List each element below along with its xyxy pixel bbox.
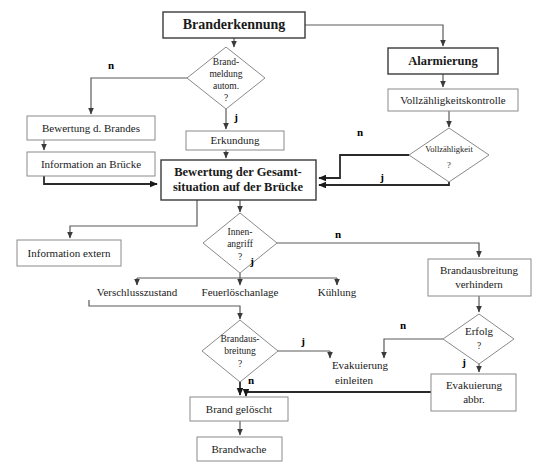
node-layer: Branderkennung Alarmierung Vollzähligkei… <box>17 12 531 461</box>
node-brandausbreitung-q-line2: breitung <box>224 346 256 356</box>
node-evakuierung-abbr[interactable]: Evakuierung abbr. <box>431 374 516 411</box>
node-kuehlung[interactable]: Kühlung <box>318 286 357 298</box>
node-branderkennung-label: Branderkennung <box>183 17 286 32</box>
node-information-extern[interactable]: Information extern <box>17 240 121 266</box>
node-brand-geloescht[interactable]: Brand gelöscht <box>190 397 288 421</box>
node-evakuierung-abbr-line1: Evakuierung <box>446 379 503 391</box>
edge-vollzaehligkeit-j <box>319 182 449 185</box>
node-verschlusszustand-label: Verschlusszustand <box>97 286 178 298</box>
branch-label-n-innenangriff: n <box>335 228 341 240</box>
edge-gesamtsituation-to-information-extern <box>70 200 197 238</box>
node-innenangriff[interactable]: Innen- angriff ? <box>203 213 277 273</box>
node-kuehlung-label: Kühlung <box>318 286 357 298</box>
flowchart-canvas: Branderkennung Alarmierung Vollzähligkei… <box>0 0 540 475</box>
branch-label-n-brandmeldung: n <box>108 59 114 71</box>
node-erfolg[interactable]: Erfolg ? <box>443 314 514 364</box>
node-feuerloeschanlage[interactable]: Feuerlöschanlage <box>202 286 279 298</box>
node-vollzaehligkeit[interactable]: Vollzähligkeit ? <box>409 128 489 182</box>
edge-vollzaehligkeit-n <box>319 155 409 178</box>
node-information-extern-label: Information extern <box>28 247 111 259</box>
edge-information-bruecke-to-gesamtsituation <box>44 176 157 184</box>
node-brandausbreitung-q-line3: ? <box>238 359 242 369</box>
node-vollzaehligkeit-line2: ? <box>447 160 451 170</box>
node-erfolg-line2: ? <box>477 341 481 351</box>
node-brandwache[interactable]: Brandwache <box>197 437 282 461</box>
node-innenangriff-line3: ? <box>238 252 242 262</box>
edge-branderkennung-to-alarmierung <box>305 25 443 46</box>
node-erkundung-label: Erkundung <box>211 134 260 146</box>
branch-label-j-brandausbreitung: j <box>300 335 305 347</box>
node-brandausbreitung-q[interactable]: Brandaus- breitung ? <box>202 320 278 382</box>
node-feuerloeschanlage-label: Feuerlöschanlage <box>202 286 279 298</box>
node-innenangriff-line1: Innen- <box>228 227 253 237</box>
node-brandausbreitung-verhindern-line2: verhindern <box>455 278 503 290</box>
node-bewertung-brandes-label: Bewertung d. Brandes <box>42 122 140 134</box>
node-brandmeldung-autom[interactable]: Brand- meldung autom. ? <box>187 47 265 109</box>
branch-label-n-erfolg: n <box>400 319 406 331</box>
edge-evakuierung-abbr-to-brand-geloescht <box>246 392 431 396</box>
node-verschlusszustand[interactable]: Verschlusszustand <box>97 286 178 298</box>
node-vollzaehligkeitskontrolle-label: Vollzähligkeitskontrolle <box>400 94 506 106</box>
node-evakuierung-einleiten[interactable]: Evakuierung einleiten <box>332 359 389 386</box>
node-evakuierung-abbr-line2: abbr. <box>463 393 485 405</box>
node-vollzaehligkeitskontrolle[interactable]: Vollzähligkeitskontrolle <box>388 89 518 111</box>
node-bewertung-gesamtsituation[interactable]: Bewertung der Gesamt- situation auf der … <box>161 160 316 200</box>
node-innenangriff-line2: angriff <box>227 239 254 249</box>
node-brandmeldung-autom-line2: meldung <box>209 69 242 79</box>
node-evakuierung-einleiten-line2: einleiten <box>335 374 373 386</box>
node-brandmeldung-autom-line1: Brand- <box>213 57 239 67</box>
node-bewertung-brandes[interactable]: Bewertung d. Brandes <box>27 116 155 140</box>
node-alarmierung-label: Alarmierung <box>408 54 478 68</box>
node-brandmeldung-autom-line3: autom. <box>213 81 239 91</box>
node-branderkennung[interactable]: Branderkennung <box>163 12 305 38</box>
edge-massnahmen-rail-bottom <box>89 300 240 319</box>
node-erfolg-line1: Erfolg <box>465 325 494 337</box>
branch-label-n-brandausbreitung: n <box>248 374 254 386</box>
branch-label-j-brandmeldung: j <box>233 111 238 123</box>
node-alarmierung[interactable]: Alarmierung <box>388 48 498 74</box>
edge-brandmeldung-n <box>91 78 187 114</box>
node-bewertung-gesamtsituation-line1: Bewertung der Gesamt- <box>174 165 302 179</box>
node-brandausbreitung-verhindern[interactable]: Brandausbreitung verhindern <box>428 259 531 296</box>
node-brandmeldung-autom-line4: ? <box>224 93 228 103</box>
branch-label-j-innenangriff: j <box>249 255 254 267</box>
node-information-bruecke[interactable]: Information an Brücke <box>27 152 155 176</box>
node-bewertung-gesamtsituation-line2: situation auf der Brücke <box>173 180 303 194</box>
node-brandausbreitung-verhindern-line1: Brandausbreitung <box>440 264 519 276</box>
branch-label-j-vollzaehligkeit: j <box>379 171 384 183</box>
branch-label-n-vollzaehligkeit: n <box>357 126 363 138</box>
node-information-bruecke-label: Information an Brücke <box>41 158 141 170</box>
edge-erfolg-n <box>384 339 443 358</box>
node-erkundung[interactable]: Erkundung <box>186 131 284 150</box>
node-vollzaehligkeit-line1: Vollzähligkeit <box>425 144 473 154</box>
edge-innenangriff-n <box>277 243 479 257</box>
node-brand-geloescht-label: Brand gelöscht <box>206 403 272 415</box>
node-brandwache-label: Brandwache <box>212 443 267 455</box>
node-evakuierung-einleiten-line1: Evakuierung <box>332 359 389 371</box>
flowchart-diagram: Branderkennung Alarmierung Vollzähligkei… <box>0 0 540 475</box>
branch-label-j-erfolg: j <box>461 356 466 368</box>
node-brandausbreitung-q-line1: Brandaus- <box>220 334 259 344</box>
